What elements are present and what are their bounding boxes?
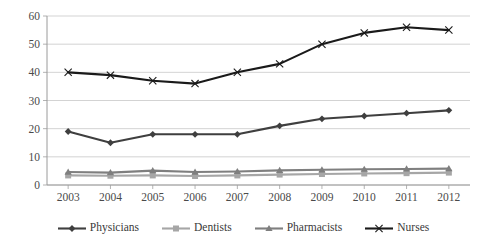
legend-label: Dentists — [194, 222, 232, 234]
x-axis-tick-label: 2011 — [395, 191, 418, 203]
y-axis-tick-label: 40 — [29, 66, 41, 78]
x-axis-tick-label: 2010 — [353, 191, 376, 203]
x-axis-tick-label: 2012 — [437, 191, 460, 203]
legend-item-nurses[interactable]: Nurses — [364, 222, 429, 234]
legend-marker-square-icon — [161, 223, 191, 234]
x-axis-tick-label: 2008 — [268, 191, 291, 203]
data-point-marker — [149, 131, 156, 138]
data-point-marker — [150, 172, 156, 178]
series-line-pharmacists — [68, 169, 449, 173]
legend-item-dentists[interactable]: Dentists — [161, 222, 232, 234]
data-point-marker — [192, 131, 199, 138]
legend-label: Nurses — [397, 222, 429, 234]
y-axis-tick-label: 30 — [29, 95, 41, 107]
x-axis-tick-label: 2004 — [99, 191, 122, 203]
legend-item-physicians[interactable]: Physicians — [57, 222, 139, 234]
x-axis-tick-label: 2005 — [141, 191, 164, 203]
data-point-marker — [319, 115, 326, 122]
data-point-marker — [361, 113, 368, 120]
data-point-marker — [173, 225, 179, 231]
series-line-nurses — [68, 27, 449, 83]
data-point-marker — [65, 128, 72, 135]
y-axis-tick-label: 10 — [29, 151, 41, 163]
y-axis-tick-label: 20 — [29, 123, 41, 135]
legend-item-pharmacists[interactable]: Pharmacists — [254, 222, 343, 234]
legend-marker-triangle-icon — [254, 223, 284, 234]
y-axis-tick-label: 0 — [34, 179, 40, 191]
chart-legend: PhysiciansDentistsPharmacistsNurses — [0, 212, 486, 244]
series-line-dentists — [68, 173, 449, 176]
line-chart: 0102030405060200320042005200620072008200… — [0, 0, 486, 244]
y-axis-tick-label: 50 — [29, 38, 41, 50]
data-point-marker — [107, 139, 114, 146]
data-point-marker — [68, 225, 75, 232]
x-axis-tick-label: 2006 — [184, 191, 207, 203]
x-axis-tick-label: 2007 — [226, 191, 249, 203]
legend-marker-diamond-icon — [57, 223, 87, 234]
y-axis-tick-label: 60 — [29, 10, 41, 22]
series-line-physicians — [68, 110, 449, 142]
data-point-marker — [445, 107, 452, 114]
x-axis-tick-label: 2009 — [310, 191, 333, 203]
legend-marker-x-icon — [364, 223, 394, 234]
data-point-marker — [276, 122, 283, 129]
data-point-marker — [403, 110, 410, 117]
plot-area: 0102030405060200320042005200620072008200… — [0, 0, 486, 212]
chart-canvas: 0102030405060200320042005200620072008200… — [0, 0, 486, 212]
legend-label: Physicians — [90, 222, 139, 234]
data-point-marker — [234, 131, 241, 138]
legend-label: Pharmacists — [287, 222, 343, 234]
x-axis-tick-label: 2003 — [57, 191, 80, 203]
